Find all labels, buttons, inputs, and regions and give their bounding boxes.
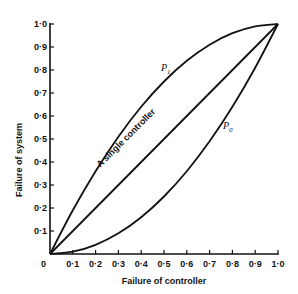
single-controller-line	[50, 24, 278, 254]
x-tick-label: 1·0	[271, 259, 284, 269]
x-tick-label: 0·4	[135, 259, 148, 269]
y-tick-label: 0·5	[34, 134, 47, 144]
x-tick-label: 0·8	[226, 259, 239, 269]
x-tick-label: 0·7	[203, 259, 216, 269]
y-tick-label: 0·6	[34, 111, 47, 121]
y-ticks: 0·10·20·30·40·50·60·70·80·91·0	[34, 19, 54, 236]
y-tick-label: 0·4	[34, 157, 47, 167]
x-tick-label: 0·9	[249, 259, 262, 269]
y-tick-label: 0·7	[34, 88, 47, 98]
p1-label: P1	[160, 62, 171, 76]
p0-label: P0	[222, 120, 233, 134]
y-tick-label: 0·1	[34, 226, 47, 236]
curves	[50, 24, 278, 254]
y-axis-title: Failure of system	[14, 123, 24, 197]
x-ticks: 0·10·20·30·40·50·60·70·80·91·0	[66, 250, 284, 269]
single-controller-label: A single controller	[95, 106, 158, 169]
y-tick-label: 0·9	[34, 42, 47, 52]
x-tick-label: 0·3	[112, 259, 125, 269]
x-tick-label: 0·2	[89, 259, 102, 269]
x-tick-label: 0·1	[66, 259, 79, 269]
y-tick-label: 0·2	[34, 203, 47, 213]
y-tick-label: 1·0	[34, 19, 47, 29]
origin-label: 0	[41, 259, 46, 269]
chart: 0·10·20·30·40·50·60·70·80·91·0 0·10·20·3…	[0, 0, 298, 294]
y-tick-label: 0·8	[34, 65, 47, 75]
y-tick-label: 0·3	[34, 180, 47, 190]
x-tick-label: 0·6	[180, 259, 193, 269]
x-tick-label: 0·5	[157, 259, 170, 269]
x-axis-title: Failure of controller	[122, 276, 207, 286]
